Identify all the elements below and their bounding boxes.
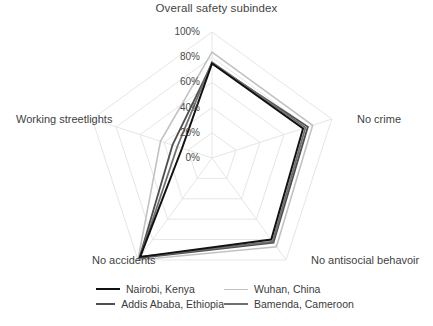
legend-label: Wuhan, China bbox=[254, 283, 320, 295]
radial-tick-100: 100% bbox=[156, 26, 200, 37]
axis-label-no-accidents: No accidents bbox=[92, 254, 156, 266]
radial-tick-60: 60% bbox=[156, 76, 200, 87]
axis-spoke-1 bbox=[212, 119, 332, 158]
radial-tick-20: 20% bbox=[156, 127, 200, 138]
legend-swatch-line-icon bbox=[224, 303, 248, 305]
legend-swatch-line-icon bbox=[224, 289, 248, 290]
axis-label-no-antisocial-behavoir: No antisocial behavoir bbox=[311, 254, 419, 266]
axis-label-working-streetlights: Working streetlights bbox=[16, 113, 112, 125]
radial-tick-40: 40% bbox=[156, 102, 200, 113]
legend-label: Addis Ababa, Ethiopia bbox=[121, 298, 224, 310]
axis-label-no-crime: No crime bbox=[357, 113, 401, 125]
chart-legend: Nairobi, Kenya Wuhan, China Addis Ababa,… bbox=[96, 283, 386, 310]
legend-item-wuhan[interactable]: Wuhan, China bbox=[224, 283, 384, 295]
radar-chart-figure: Overall safety subindex 0% 20% 40% 60% 8… bbox=[0, 0, 433, 326]
axis-spoke-3 bbox=[138, 158, 212, 260]
legend-label: Nairobi, Kenya bbox=[126, 283, 195, 295]
radial-tick-0: 0% bbox=[156, 152, 200, 163]
legend-item-addis-ababa[interactable]: Addis Ababa, Ethiopia bbox=[96, 298, 224, 310]
legend-swatch-line-icon bbox=[96, 288, 120, 290]
legend-label: Bamenda, Cameroon bbox=[254, 298, 354, 310]
legend-item-bamenda[interactable]: Bamenda, Cameroon bbox=[224, 298, 384, 310]
legend-swatch-line-icon bbox=[96, 303, 115, 305]
radial-tick-80: 80% bbox=[156, 51, 200, 62]
radar-plot-area bbox=[0, 0, 433, 326]
legend-item-nairobi[interactable]: Nairobi, Kenya bbox=[96, 283, 224, 295]
